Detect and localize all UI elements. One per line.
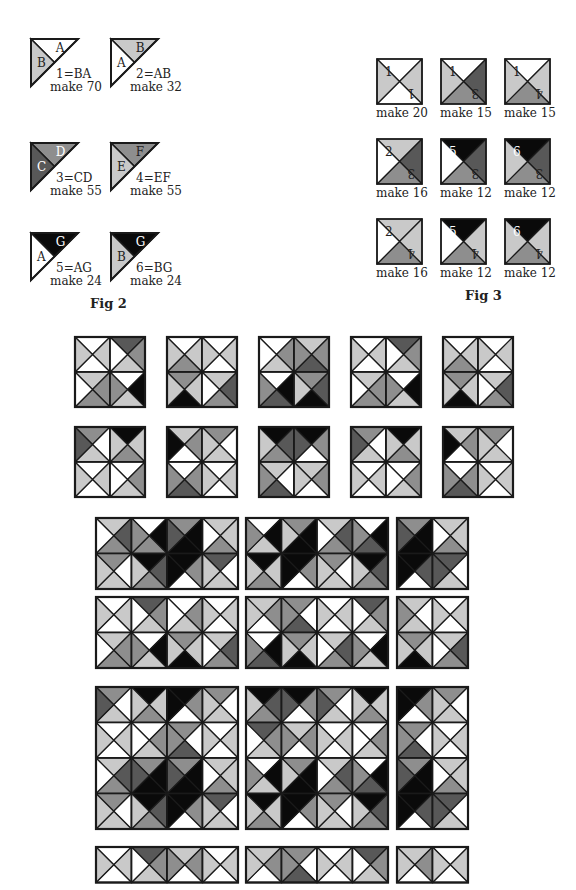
quilt-section-7 [95,686,240,831]
block-pair-10 [442,426,515,499]
unit-1-make-count: make 70 [50,81,102,94]
fig2-caption: Fig 2 [90,296,127,311]
svg-text:4: 4 [407,246,415,260]
block-pair-4 [350,336,423,409]
quilt-section-5 [245,596,390,670]
fig3-square-3: 14 [504,58,551,105]
fig3-square-5: 53 [440,138,487,185]
svg-text:G: G [56,235,66,249]
fig3-square-9: 64 [504,218,551,265]
fig3-square-2: 13 [440,58,487,105]
block-pair-9 [350,426,423,499]
block-pair-2 [166,336,239,409]
svg-text:2: 2 [385,225,393,239]
svg-text:3: 3 [471,86,479,100]
quilt-section-8 [245,686,390,831]
fig3-square-6: 63 [504,138,551,185]
svg-text:A: A [116,56,126,70]
svg-text:D: D [56,145,66,159]
svg-text:1: 1 [449,65,457,79]
svg-text:4: 4 [535,86,543,100]
svg-text:5: 5 [449,145,457,159]
unit-5-make-count: make 24 [50,275,102,288]
quilt-section-12 [396,846,470,885]
fig3-square-9-make-count: make 12 [504,266,556,280]
svg-text:6: 6 [513,145,521,159]
svg-text:4: 4 [535,246,543,260]
svg-text:3: 3 [471,166,479,180]
quilt-section-9 [396,686,470,831]
fig3-square-4: 23 [376,138,423,185]
svg-text:B: B [136,41,145,55]
fig3-square-8-make-count: make 12 [440,266,492,280]
svg-text:C: C [37,160,46,174]
unit-4-make-count: make 55 [130,185,182,198]
quilt-section-2 [245,517,390,591]
quilt-section-6 [396,596,470,670]
fig3-square-1-make-count: make 20 [376,106,428,120]
fig3-caption: Fig 3 [465,288,502,303]
quilt-section-10 [95,846,240,885]
unit-2-make-count: make 32 [130,81,182,94]
svg-text:E: E [117,160,126,174]
svg-text:3: 3 [535,166,543,180]
block-pair-6 [74,426,147,499]
fig3-square-4-make-count: make 16 [376,186,428,200]
fig3-square-7: 24 [376,218,423,265]
svg-text:6: 6 [513,225,521,239]
unit-6-make-count: make 24 [130,275,182,288]
block-pair-3 [258,336,331,409]
block-pair-1 [74,336,147,409]
svg-text:F: F [136,145,144,159]
svg-text:G: G [136,235,146,249]
quilt-section-3 [396,517,470,591]
fig3-square-1: 11 [376,58,423,105]
unit-3-make-count: make 55 [50,185,102,198]
svg-text:3: 3 [407,166,415,180]
svg-text:4: 4 [471,246,479,260]
fig3-square-3-make-count: make 15 [504,106,556,120]
svg-text:5: 5 [449,225,457,239]
svg-text:B: B [37,56,46,70]
svg-text:A: A [55,41,65,55]
block-pair-8 [258,426,331,499]
fig3-square-2-make-count: make 15 [440,106,492,120]
quilt-section-4 [95,596,240,670]
fig3-square-8: 54 [440,218,487,265]
fig3-square-6-make-count: make 12 [504,186,556,200]
svg-text:1: 1 [513,65,521,79]
svg-text:B: B [117,250,126,264]
svg-text:A: A [36,250,46,264]
svg-text:1: 1 [407,86,415,100]
fig3-square-7-make-count: make 16 [376,266,428,280]
block-pair-5 [442,336,515,409]
quilt-section-11 [245,846,390,885]
svg-text:2: 2 [385,145,393,159]
svg-text:1: 1 [385,65,393,79]
block-pair-7 [166,426,239,499]
quilt-section-1 [95,517,240,591]
fig3-square-5-make-count: make 12 [440,186,492,200]
